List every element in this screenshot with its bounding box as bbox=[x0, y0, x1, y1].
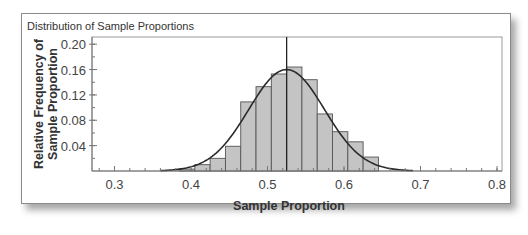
y-tick-label: 0.20 bbox=[61, 37, 86, 52]
y-tick-label: 0.04 bbox=[61, 139, 86, 154]
histogram-bar bbox=[225, 146, 240, 171]
histogram-bar bbox=[333, 132, 348, 171]
x-tick-label: 0.8 bbox=[488, 177, 506, 192]
histogram-bar bbox=[241, 102, 256, 171]
x-tick-label: 0.6 bbox=[335, 177, 353, 192]
x-axis-title: Sample Proportion bbox=[233, 199, 345, 213]
histogram-bars bbox=[180, 67, 379, 171]
histogram-bar bbox=[287, 67, 302, 171]
y-tick-label: 0.08 bbox=[61, 113, 86, 128]
x-tick-label: 0.4 bbox=[182, 177, 200, 192]
x-tick-label: 0.3 bbox=[105, 177, 123, 192]
x-tick-label: 0.7 bbox=[411, 177, 429, 192]
y-axis-title-line2: Sample Proportion bbox=[46, 48, 60, 160]
histogram-bar bbox=[271, 74, 286, 171]
histogram-bar bbox=[210, 158, 225, 171]
histogram-chart: 0.30.40.50.60.70.80.040.080.120.160.20 S… bbox=[0, 0, 528, 235]
y-tick-label: 0.12 bbox=[61, 88, 86, 103]
histogram-bar bbox=[256, 87, 271, 171]
y-axis-title: Relative Frequency of Sample Proportion bbox=[32, 38, 60, 169]
y-axis-title-line1: Relative Frequency of bbox=[32, 38, 46, 169]
histogram-bar bbox=[317, 114, 332, 171]
x-tick-label: 0.5 bbox=[258, 177, 276, 192]
y-tick-label: 0.16 bbox=[61, 63, 86, 78]
